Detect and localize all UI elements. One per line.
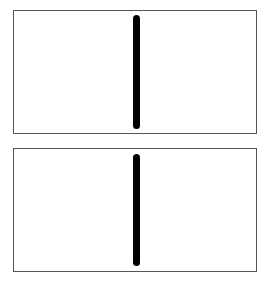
- vertical-bar-bottom: [133, 154, 140, 266]
- panel-top: [13, 10, 257, 134]
- vertical-bar-top: [133, 15, 140, 129]
- panel-bottom: [13, 148, 257, 272]
